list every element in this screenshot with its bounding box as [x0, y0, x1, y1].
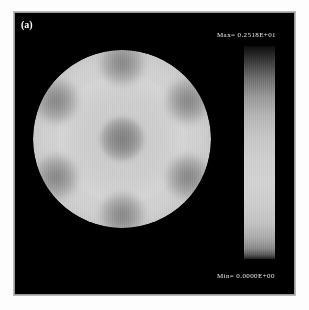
colorbar-max-label: Max= 0.2518E+01 [217, 31, 276, 39]
field-map-disc [33, 50, 211, 228]
colorbar-min-label: Min= 0.0000E+00 [217, 272, 275, 280]
plot-frame: (a) Max= 0.2518E+01 Mi [13, 11, 296, 296]
panel-label: (a) [21, 19, 33, 30]
figure-root: (a) Max= 0.2518E+01 Mi [0, 0, 309, 310]
plot-panel: (a) Max= 0.2518E+01 Mi [15, 13, 294, 294]
colorbar-gradient-strip [244, 46, 275, 259]
colorbar-raster-texture [244, 46, 275, 259]
field-disc-base [33, 50, 211, 228]
colorbar-group: Max= 0.2518E+01 Min= 0.0000E+00 [215, 27, 293, 282]
